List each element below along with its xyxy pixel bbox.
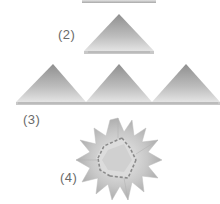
step-2-label: (2) [58, 27, 75, 42]
step-2-triangle [82, 13, 156, 55]
step-1-strip [82, 0, 156, 4]
step-3-triangle-row [16, 62, 220, 106]
step-3-label: (3) [23, 112, 40, 127]
step-4-star [72, 116, 164, 202]
